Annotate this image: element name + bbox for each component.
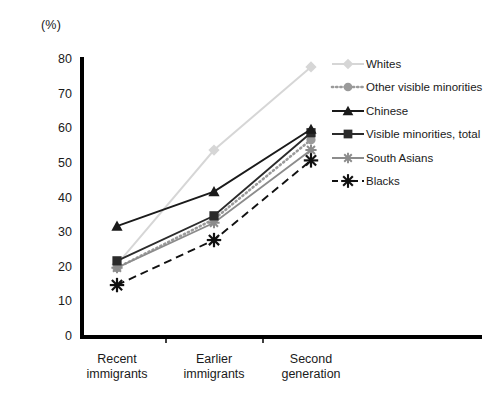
- asterisk-marker-icon: [330, 171, 366, 191]
- legend-item-other-visible-minorities[interactable]: Other visible minorities: [330, 76, 496, 100]
- series-south-asians: [111, 144, 316, 273]
- square-marker-icon: [330, 124, 366, 144]
- legend-item-whites[interactable]: Whites: [330, 52, 496, 76]
- legend-label: Chinese: [366, 105, 408, 117]
- chart-figure: (%) Canadian identity 01020304050607080 …: [0, 0, 496, 398]
- legend-label: Blacks: [366, 175, 400, 187]
- legend-item-south-asians[interactable]: South Asians: [330, 146, 496, 170]
- triangle-marker-icon: [330, 101, 366, 121]
- legend-label: South Asians: [366, 152, 433, 164]
- legend-item-visible-minorities-total[interactable]: Visible minorities, total: [330, 123, 496, 147]
- legend-label: Other visible minorities: [366, 81, 482, 93]
- circle-marker-icon: [330, 77, 366, 97]
- legend-item-blacks[interactable]: Blacks: [330, 170, 496, 194]
- star-marker-icon: [330, 148, 366, 168]
- legend-label: Whites: [366, 58, 401, 70]
- legend-label: Visible minorities, total: [366, 128, 480, 140]
- legend-item-chinese[interactable]: Chinese: [330, 99, 496, 123]
- series-layer: [110, 61, 318, 292]
- chart-legend: WhitesOther visible minoritiesChineseVis…: [330, 52, 496, 193]
- diamond-marker-icon: [330, 54, 366, 74]
